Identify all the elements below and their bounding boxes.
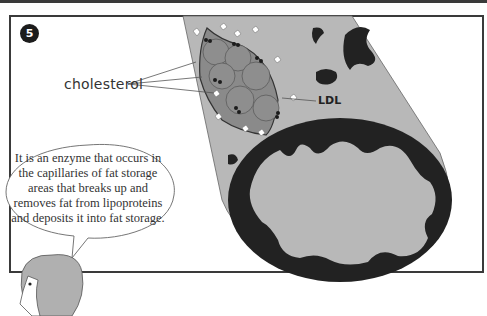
character-head <box>20 255 83 316</box>
ldl-label: LDL <box>318 94 341 107</box>
panel-number-badge: 5 <box>20 24 39 43</box>
cholesterol-label: cholesterol <box>64 76 143 92</box>
speech-bubble-text: It is an enzyme that occurs in the capil… <box>8 151 168 226</box>
